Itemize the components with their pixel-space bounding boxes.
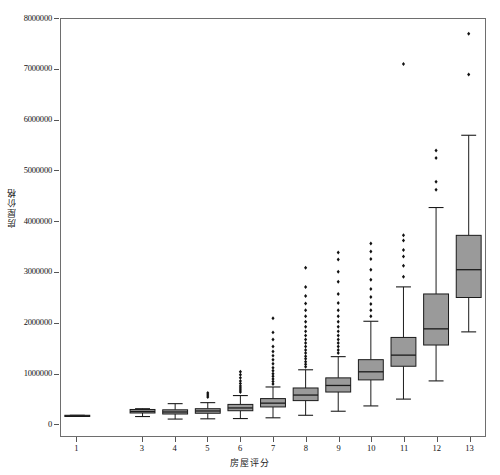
- outlier-marker: [435, 148, 438, 152]
- outlier-marker: [369, 268, 372, 272]
- y-tick-label: 7000000: [24, 64, 52, 73]
- outlier-marker: [369, 257, 372, 261]
- outlier-marker: [402, 62, 405, 66]
- outlier-marker: [337, 270, 340, 274]
- x-tick-mark: [240, 437, 241, 442]
- outlier-marker: [271, 358, 274, 362]
- outlier-marker: [369, 287, 372, 291]
- x-tick-mark: [371, 437, 372, 442]
- outlier-marker: [435, 188, 438, 192]
- x-tick-mark: [76, 437, 77, 442]
- outlier-marker: [271, 350, 274, 354]
- box-rect: [358, 360, 383, 380]
- boxplot-group: [130, 409, 155, 417]
- x-tick-label: 6: [238, 444, 242, 453]
- x-tick-label: 8: [304, 444, 308, 453]
- box-rect: [456, 235, 481, 297]
- x-tick-mark: [207, 437, 208, 442]
- outlier-marker: [402, 264, 405, 268]
- outlier-marker: [337, 258, 340, 262]
- outlier-marker: [304, 333, 307, 337]
- outlier-marker: [337, 292, 340, 296]
- outlier-marker: [369, 302, 372, 306]
- x-tick-label: 12: [433, 444, 442, 453]
- outlier-marker: [337, 325, 340, 329]
- outlier-marker: [402, 248, 405, 252]
- outlier-marker: [402, 233, 405, 237]
- y-tick-label: 0: [48, 420, 52, 429]
- outlier-marker: [337, 333, 340, 337]
- boxplot-canvas: [61, 19, 485, 436]
- outlier-marker: [271, 330, 274, 334]
- outlier-marker: [271, 354, 274, 358]
- outlier-marker: [369, 241, 372, 245]
- outlier-marker: [337, 337, 340, 341]
- y-tick-label: 6000000: [24, 115, 52, 124]
- outlier-marker: [304, 348, 307, 352]
- outlier-marker: [337, 301, 340, 305]
- x-tick-label: 1: [74, 444, 78, 453]
- y-tick-mark: [54, 69, 59, 70]
- x-tick-label: 7: [271, 444, 275, 453]
- y-tick-mark: [54, 424, 59, 425]
- outlier-marker: [337, 348, 340, 352]
- outlier-marker: [337, 345, 340, 349]
- y-tick-mark: [54, 323, 59, 324]
- x-axis-title: 房屋评分: [0, 458, 500, 468]
- outlier-marker: [435, 156, 438, 160]
- outlier-marker: [271, 316, 274, 320]
- outlier-marker: [369, 314, 372, 318]
- y-tick-label: 8000000: [24, 14, 52, 23]
- outlier-marker: [402, 255, 405, 259]
- y-axis-title: 房屋价格: [6, 188, 20, 228]
- outlier-marker: [337, 341, 340, 345]
- outlier-marker: [337, 314, 340, 318]
- y-tick-mark: [54, 170, 59, 171]
- x-tick-mark: [273, 437, 274, 442]
- outlier-marker: [304, 320, 307, 324]
- y-tick-label: 5000000: [24, 166, 52, 175]
- outlier-marker: [304, 285, 307, 289]
- boxplot-group: [163, 404, 188, 419]
- box-rect: [424, 294, 449, 345]
- outlier-marker: [304, 345, 307, 349]
- x-tick-label: 5: [205, 444, 209, 453]
- x-tick-mark: [437, 437, 438, 442]
- outlier-marker: [369, 308, 372, 312]
- boxplot-group: [424, 148, 449, 380]
- outlier-marker: [271, 366, 274, 370]
- outlier-marker: [337, 251, 340, 255]
- x-tick-label: 4: [173, 444, 177, 453]
- x-tick-label: 13: [465, 444, 474, 453]
- y-tick-mark: [54, 374, 59, 375]
- y-tick-label: 1000000: [24, 369, 52, 378]
- outlier-marker: [369, 295, 372, 299]
- outlier-marker: [271, 362, 274, 366]
- x-tick-mark: [339, 437, 340, 442]
- box-rect: [293, 388, 318, 401]
- y-tick-mark: [54, 272, 59, 273]
- outlier-marker: [304, 325, 307, 329]
- boxplot-group: [326, 251, 351, 412]
- boxplot-group: [358, 241, 383, 405]
- outlier-marker: [304, 329, 307, 333]
- outlier-marker: [402, 275, 405, 279]
- boxplot-group: [228, 370, 253, 419]
- y-tick-mark: [54, 18, 59, 19]
- boxplot-group: [65, 415, 90, 416]
- outlier-marker: [271, 337, 274, 341]
- boxplot-group: [293, 266, 318, 416]
- outlier-marker: [239, 370, 242, 374]
- boxplot-group: [391, 62, 416, 399]
- x-tick-label: 10: [367, 444, 376, 453]
- x-tick-mark: [306, 437, 307, 442]
- y-tick-label: 2000000: [24, 318, 52, 327]
- x-tick-label: 3: [140, 444, 144, 453]
- boxplot-group: [456, 32, 481, 332]
- outlier-marker: [304, 314, 307, 318]
- outlier-marker: [304, 337, 307, 341]
- x-tick-label: 11: [400, 444, 408, 453]
- outlier-marker: [304, 308, 307, 312]
- y-tick-label: 3000000: [24, 267, 52, 276]
- outlier-marker: [369, 278, 372, 282]
